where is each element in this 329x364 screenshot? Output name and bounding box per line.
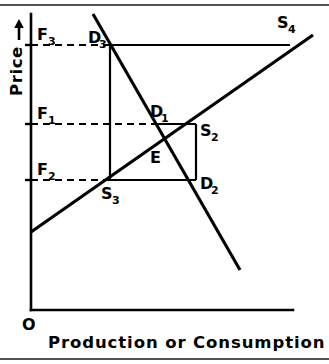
point-d3-sub: 3 bbox=[99, 38, 107, 51]
price-level-f2-base: F bbox=[37, 160, 48, 179]
point-s3-base: S bbox=[101, 184, 113, 203]
supply-demand-figure: Price Production or Consumption O F 3 F … bbox=[0, 0, 329, 364]
price-axis-title: Price bbox=[7, 46, 26, 96]
diagram-canvas: Price Production or Consumption O F 3 F … bbox=[0, 0, 329, 364]
price-level-f3-sub: 3 bbox=[48, 35, 56, 48]
price-level-f1-sub: 1 bbox=[48, 114, 56, 127]
price-level-f3-base: F bbox=[37, 25, 48, 44]
price-level-f2-sub: 2 bbox=[48, 170, 56, 183]
origin-label: O bbox=[22, 315, 36, 334]
point-label-e: E bbox=[150, 148, 161, 167]
point-d1-sub: 1 bbox=[161, 112, 169, 125]
point-s2-base: S bbox=[200, 121, 212, 140]
point-s3-sub: 3 bbox=[112, 194, 120, 207]
price-level-f1-base: F bbox=[37, 104, 48, 123]
point-e-base: E bbox=[150, 148, 161, 167]
point-s4-base: S bbox=[277, 13, 289, 32]
point-s2-sub: 2 bbox=[211, 131, 219, 144]
point-d2-sub: 2 bbox=[211, 184, 219, 197]
x-axis-title: Production or Consumption bbox=[48, 333, 325, 352]
point-s4-sub: 4 bbox=[288, 23, 296, 36]
